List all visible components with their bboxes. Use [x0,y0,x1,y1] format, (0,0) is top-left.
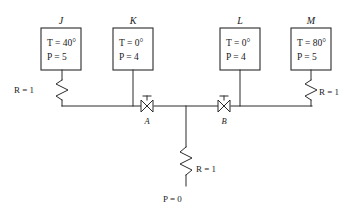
valve-label-B: B [221,116,226,126]
node-box-K [113,28,153,70]
node-group-L: L T = 0° P = 4 [220,15,260,70]
valve-A[interactable]: A [141,96,153,126]
node-pressure-K: P = 4 [119,52,139,62]
node-group-K: K T = 0° P = 4 [113,15,153,70]
node-temperature-J: T = 40° [47,38,76,48]
node-temperature-L: T = 0° [226,38,250,48]
node-box-L [220,28,260,70]
node-pressure-J: P = 5 [47,52,67,62]
node-box-J [41,28,81,70]
hydraulic-network-diagram: J T = 40° P = 5 K T = 0° P = 4 L T = 0° … [0,0,358,214]
resistor-zigzag-left [56,80,68,100]
resistor-zigzag-bottom [180,147,192,175]
node-pressure-M: P = 5 [297,52,317,62]
terminal-pressure-label: P = 0 [163,194,182,204]
node-label-L: L [236,15,243,26]
node-temperature-M: T = 80° [297,38,326,48]
node-label-M: M [306,15,316,26]
node-pressure-L: P = 4 [226,52,246,62]
valve-A-bowtie[interactable] [141,100,153,112]
node-label-K: K [129,15,138,26]
diagram-canvas: J T = 40° P = 5 K T = 0° P = 4 L T = 0° … [0,0,358,214]
valve-B[interactable]: B [218,96,230,126]
valve-label-A: A [143,116,150,126]
resistor-label-bottom: R = 1 [196,164,216,174]
resistor-label-right: R = 1 [319,87,339,97]
resistor-zigzag-right [305,80,317,100]
node-temperature-K: T = 0° [119,38,143,48]
node-group-M: M T = 80° P = 5 [291,15,331,70]
resistor-label-left: R = 1 [14,85,34,95]
node-label-J: J [59,15,64,26]
valve-B-bowtie[interactable] [218,100,230,112]
node-box-M [291,28,331,70]
node-group-J: J T = 40° P = 5 [41,15,81,70]
